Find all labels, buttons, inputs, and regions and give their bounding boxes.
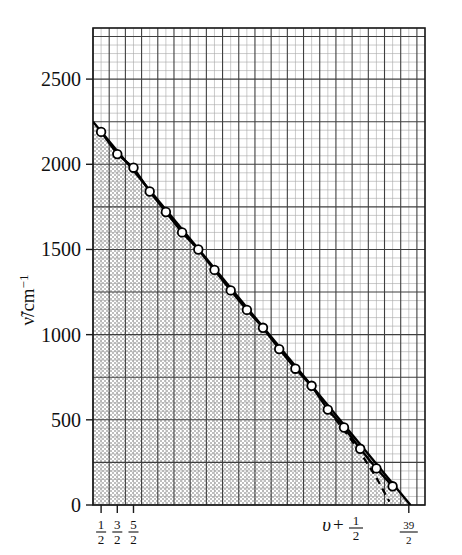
chart-svg: 05001000150020002500 123252392 ν̃/cm−1 υ… [0,0,462,555]
plot-area [93,28,425,505]
x-axis-title-fraction-numerator: 1 [353,513,360,528]
x-tick-fraction-denominator: 2 [406,534,412,546]
x-tick-fraction-denominator: 2 [130,532,137,547]
x-tick-fraction-numerator: 39 [403,519,415,531]
x-tick-fraction-denominator: 2 [98,532,105,547]
y-axis-tick-label: 500 [51,409,81,431]
x-tick-fraction-denominator: 2 [114,532,121,547]
y-axis-tick-label: 2500 [41,68,81,90]
x-tick-fraction-numerator: 5 [130,517,137,532]
x-tick-fraction-numerator: 3 [114,517,121,532]
y-axis-title-unit: /cm [17,288,38,317]
y-axis-tick-label: 1000 [41,324,81,346]
y-axis-tick-label: 0 [71,494,81,516]
x-axis-title-symbol: υ [322,514,331,535]
birge-sponer-chart: 05001000150020002500 123252392 ν̃/cm−1 υ… [0,0,462,555]
y-axis-title-exponent: −1 [16,275,31,289]
y-axis-tick-label: 1500 [41,238,81,260]
y-axis-tick-label: 2000 [41,153,81,175]
x-axis-title-plus: + [333,514,344,535]
x-axis-title-fraction-denominator: 2 [353,528,360,543]
svg-text:υ+: υ+ [322,514,343,535]
x-tick-fraction-numerator: 1 [98,517,105,532]
